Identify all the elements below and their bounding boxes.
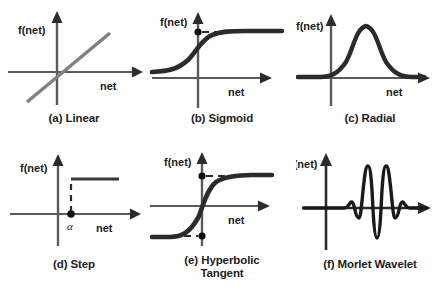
activation-functions-figure: f(net) net (a) Linear f(net) net <box>0 0 444 291</box>
caption-radial-line1: (c) Radial <box>345 112 396 124</box>
plot-hyperbolic-tangent: f(net) net <box>148 146 296 258</box>
y-axis-label-sigmoid: f(net) <box>160 16 188 28</box>
lower-asymptote-dot-tanh <box>198 232 205 239</box>
caption-tanh-line2: Tangent <box>148 267 296 280</box>
caption-sigmoid-line1: (b) Sigmoid <box>191 112 253 124</box>
plot-radial: f(net) net <box>296 0 444 112</box>
threshold-dot-step <box>67 210 75 218</box>
caption-linear: (a) Linear <box>0 112 148 125</box>
panel-step: f(net) α net (d) Step <box>0 146 148 291</box>
x-axis-label-radial: net <box>386 86 403 98</box>
y-axis-label-linear: f(net) <box>18 24 46 36</box>
caption-morlet-line1: (f) Morlet Wavelet <box>323 258 417 270</box>
caption-hyperbolic-tangent: (e) Hyperbolic Tangent <box>148 254 296 280</box>
plot-morlet-wavelet: f(net) <box>296 146 444 258</box>
plot-linear: f(net) net <box>0 0 148 112</box>
caption-radial: (c) Radial <box>296 112 444 125</box>
panel-sigmoid: f(net) net (b) Sigmoid <box>148 0 296 145</box>
caption-sigmoid: (b) Sigmoid <box>148 112 296 125</box>
panel-hyperbolic-tangent: f(net) net (e) Hyperbolic Tangent <box>148 146 296 291</box>
linear-curve <box>27 33 110 102</box>
y-axis-label-tanh: f(net) <box>164 156 192 168</box>
plot-step: f(net) α net <box>0 146 148 258</box>
radial-curve <box>298 26 424 77</box>
y-axis-label-morlet: f(net) <box>296 158 318 170</box>
y-axis-label-radial: f(net) <box>296 20 324 32</box>
x-axis-label-linear: net <box>100 80 117 92</box>
panel-morlet-wavelet: f(net) (f) Morlet Wavelet <box>296 146 444 291</box>
upper-asymptote-dot-tanh <box>198 172 205 179</box>
morlet-wavelet-curve <box>304 166 426 238</box>
x-axis-label-step: net <box>96 222 113 234</box>
plot-sigmoid: f(net) net <box>148 0 296 112</box>
caption-tanh-line1: (e) Hyperbolic <box>148 254 296 267</box>
panel-linear: f(net) net (a) Linear <box>0 0 148 145</box>
y-axis-label-step: f(net) <box>20 162 48 174</box>
caption-morlet-wavelet: (f) Morlet Wavelet <box>296 258 444 271</box>
asymptote-dot-sigmoid <box>194 28 201 35</box>
caption-step: (d) Step <box>0 258 148 271</box>
panel-radial: f(net) net (c) Radial <box>296 0 444 145</box>
x-axis-label-tanh: net <box>228 214 245 226</box>
threshold-label-step: α <box>67 220 73 232</box>
x-axis-label-sigmoid: net <box>228 86 245 98</box>
sigmoid-curve <box>152 31 282 72</box>
caption-linear-line1: (a) Linear <box>49 112 100 124</box>
caption-step-line1: (d) Step <box>53 258 95 270</box>
